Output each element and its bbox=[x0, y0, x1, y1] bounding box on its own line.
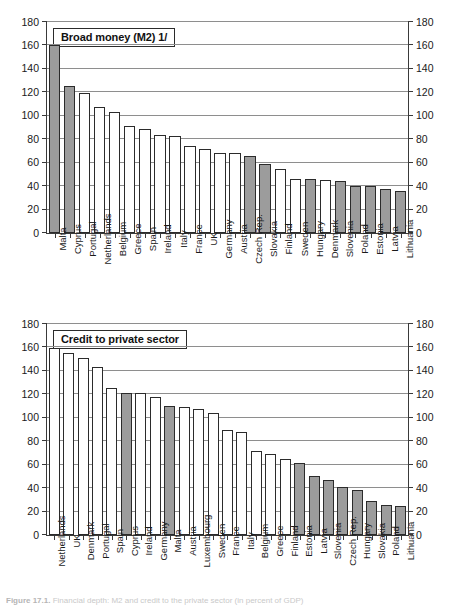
y-axis-label-right: 180 bbox=[416, 319, 434, 330]
y-axis-label-right: 140 bbox=[416, 365, 434, 376]
figure-container: Broad money (M2) 1/ 00202040406060808010… bbox=[0, 0, 455, 606]
bar-cell bbox=[182, 22, 197, 233]
y-axis-label-left: 160 bbox=[21, 342, 39, 353]
bar-cell bbox=[278, 324, 292, 535]
y-axis-tick-right bbox=[408, 346, 413, 347]
y-axis-tick-right bbox=[408, 464, 413, 465]
y-axis-tick-right bbox=[408, 487, 413, 488]
bar[interactable] bbox=[222, 430, 233, 536]
bar[interactable] bbox=[49, 45, 60, 233]
bar-cell bbox=[333, 22, 348, 233]
category-label-cell: Germany bbox=[212, 236, 227, 306]
y-axis-tick-right bbox=[408, 185, 413, 186]
bar-cell bbox=[62, 22, 77, 233]
bar-cell bbox=[348, 22, 363, 233]
y-axis-label-right: 120 bbox=[416, 389, 434, 400]
bar-series-top bbox=[47, 22, 408, 233]
bar-cell bbox=[152, 22, 167, 233]
bar[interactable] bbox=[135, 393, 146, 535]
bar-cell bbox=[243, 22, 258, 233]
category-label-cell: Belgium bbox=[107, 236, 122, 306]
category-label-cell: Poland bbox=[349, 236, 364, 306]
bar[interactable] bbox=[121, 393, 132, 535]
bar-cell bbox=[292, 324, 306, 535]
category-label-cell: Austria bbox=[228, 236, 243, 306]
bar-cell bbox=[107, 22, 122, 233]
bar[interactable] bbox=[49, 348, 60, 535]
bar[interactable] bbox=[280, 459, 291, 535]
bar-cell bbox=[119, 324, 133, 535]
bar-cell bbox=[137, 22, 152, 233]
bar-cell bbox=[220, 324, 234, 535]
y-axis-label-left: 0 bbox=[33, 228, 39, 239]
bar-cell bbox=[105, 324, 119, 535]
bar[interactable] bbox=[184, 146, 195, 233]
bar[interactable] bbox=[78, 358, 89, 535]
bar[interactable] bbox=[92, 367, 103, 535]
bar-cell bbox=[321, 324, 335, 535]
bar[interactable] bbox=[139, 129, 150, 233]
bar[interactable] bbox=[150, 397, 161, 535]
y-axis-label-right: 60 bbox=[416, 459, 428, 470]
bar-cell bbox=[90, 324, 104, 535]
y-axis-label-left: 40 bbox=[27, 483, 39, 494]
bar-cell bbox=[307, 324, 321, 535]
y-axis-label-right: 40 bbox=[416, 483, 428, 494]
category-label-cell: Finland bbox=[273, 236, 288, 306]
y-axis-tick-right bbox=[408, 511, 413, 512]
bar-cell bbox=[191, 324, 205, 535]
bar-series-bottom bbox=[47, 324, 408, 535]
bar[interactable] bbox=[64, 86, 75, 233]
category-label-cell: Cyprus bbox=[61, 236, 76, 306]
bar[interactable] bbox=[79, 93, 90, 233]
bar-cell bbox=[235, 324, 249, 535]
bar[interactable] bbox=[236, 432, 247, 535]
bar[interactable] bbox=[179, 407, 190, 535]
bar-cell bbox=[92, 22, 107, 233]
category-label-cell: Ireland bbox=[152, 236, 167, 306]
bar-cell bbox=[363, 22, 378, 233]
figure-caption-label: Figure 17.1. bbox=[6, 596, 50, 605]
bar-cell bbox=[61, 324, 75, 535]
y-axis-tick-right bbox=[408, 209, 413, 210]
bar[interactable] bbox=[164, 406, 175, 535]
y-axis-label-left: 20 bbox=[27, 204, 39, 215]
y-axis-label-right: 100 bbox=[416, 412, 434, 423]
category-label-cell: Portugal bbox=[76, 236, 91, 306]
y-axis-tick-right bbox=[408, 91, 413, 92]
y-axis-label-right: 140 bbox=[416, 63, 434, 74]
bar[interactable] bbox=[124, 126, 135, 233]
y-axis-label-right: 80 bbox=[416, 134, 428, 145]
y-axis-label-right: 0 bbox=[416, 228, 422, 239]
category-label-cell: Greece bbox=[122, 236, 137, 306]
y-axis-label-left: 140 bbox=[21, 63, 39, 74]
y-axis-label-left: 100 bbox=[21, 412, 39, 423]
y-axis-label-right: 160 bbox=[416, 342, 434, 353]
category-label-cell: Lithuania bbox=[394, 236, 409, 306]
bar-cell bbox=[350, 324, 364, 535]
figure-caption: Figure 17.1. Financial depth: M2 and cre… bbox=[6, 596, 450, 606]
bar[interactable] bbox=[63, 353, 74, 535]
bar[interactable] bbox=[169, 136, 180, 233]
category-label: Lithuania bbox=[405, 220, 415, 259]
bar[interactable] bbox=[154, 135, 165, 233]
y-axis-label-left: 180 bbox=[21, 17, 39, 28]
bar[interactable] bbox=[251, 451, 262, 535]
bar[interactable] bbox=[106, 388, 117, 535]
y-axis-label-right: 60 bbox=[416, 157, 428, 168]
bar-cell bbox=[378, 22, 393, 233]
figure-caption-text: Financial depth: M2 and credit to the pr… bbox=[53, 596, 304, 605]
bar-cell bbox=[47, 22, 62, 233]
bar-cell bbox=[264, 324, 278, 535]
y-axis-tick-right bbox=[408, 138, 413, 139]
bar[interactable] bbox=[265, 454, 276, 535]
y-axis-label-right: 20 bbox=[416, 204, 428, 215]
y-axis-tick-right bbox=[408, 21, 413, 22]
bar-cell bbox=[148, 324, 162, 535]
chart-panel-broad-money: Broad money (M2) 1/ 00202040406060808010… bbox=[0, 8, 455, 300]
y-axis-label-left: 180 bbox=[21, 319, 39, 330]
bar-cell bbox=[336, 324, 350, 535]
bar[interactable] bbox=[199, 149, 210, 233]
bar-cell bbox=[303, 22, 318, 233]
y-axis-label-right: 0 bbox=[416, 530, 422, 541]
